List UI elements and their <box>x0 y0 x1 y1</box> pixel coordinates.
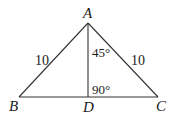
label-point-b: B <box>9 98 18 114</box>
label-side-ab: 10 <box>35 53 49 68</box>
triangle-svg: A B D C 10 10 45° 90° <box>0 0 175 116</box>
label-angle-d: 90° <box>92 82 110 97</box>
label-side-ac: 10 <box>131 53 145 68</box>
label-point-c: C <box>156 98 167 114</box>
label-point-a: A <box>82 5 93 21</box>
label-angle-a: 45° <box>92 45 110 60</box>
side-ab <box>19 23 88 97</box>
label-point-d: D <box>82 99 94 115</box>
triangle-diagram: A B D C 10 10 45° 90° <box>0 0 175 116</box>
